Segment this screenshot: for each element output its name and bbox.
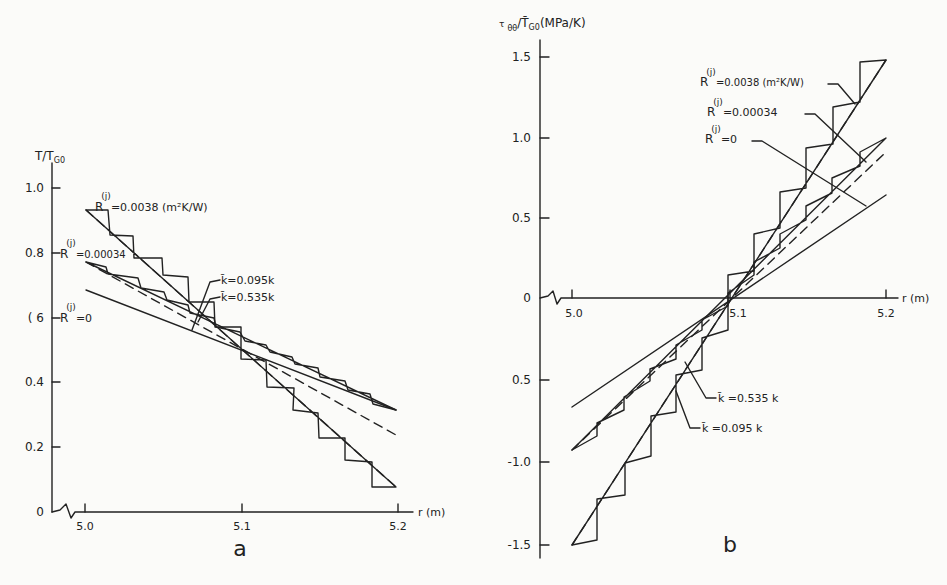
panel-a-leader-k1	[192, 280, 220, 330]
panel-a-series-r00038-step	[86, 210, 396, 487]
panel-a-annotation-r00038: R(j)=0.0038 (m²K/W)	[95, 191, 208, 214]
panel-b-annotation-r00038: R(j)=0.0038 (m²K/W)	[700, 67, 804, 89]
panel-b-leader-r00038	[828, 84, 855, 104]
panel-b-leader-k0535	[685, 362, 716, 398]
panel-a-x-ticks	[85, 504, 398, 512]
panel-b-annotation-r000034: R(j)=0.00034	[707, 97, 778, 119]
panel-a-x-axis	[52, 504, 413, 518]
panel-a-annotation-k0095: k̄=0.095k	[220, 274, 275, 287]
panel-a-ytick-0-6: ( 6	[28, 311, 44, 325]
panel-a-annotation-k0535: k̄=0.535k	[220, 291, 275, 304]
panel-b-leader-r0	[752, 141, 866, 206]
panel-b-chart	[540, 40, 898, 558]
panel-a-label: a	[233, 536, 246, 561]
panel-a-annotation-r000034: R(j)=0.00034	[60, 238, 126, 261]
panel-b-y-ticks	[540, 57, 549, 545]
panel-a-ytick-1-0: 1.0	[25, 181, 44, 195]
panel-b-series-k0535-dashed	[572, 152, 886, 450]
panel-b-ytick-0: 0	[523, 291, 531, 305]
panel-a-ytick-0-8: 0.8	[25, 246, 44, 260]
panel-b-xtick-5-0: 5.0	[565, 307, 583, 320]
panel-b-label: b	[723, 532, 737, 557]
panel-a-leader-k2	[198, 297, 220, 322]
panel-b-x-axis	[540, 291, 898, 304]
panel-a-annotation-r0: R(j)=0	[60, 302, 92, 325]
panel-b-leader-k0095	[676, 391, 700, 428]
panel-b-ytick-neg-1-0: -1.0	[508, 455, 531, 469]
panel-a-x-label: r (m)	[418, 506, 445, 519]
panel-b-x-label: r (m)	[902, 292, 929, 305]
figure: T/TG0 1.0 0.8 ( 6 0.4 0.2 0 5.0 5.1 5.2 …	[0, 0, 947, 585]
panel-a-text: T/TG0 1.0 0.8 ( 6 0.4 0.2 0 5.0 5.1 5.2 …	[25, 149, 445, 561]
panel-b-xtick-5-2: 5.2	[877, 307, 895, 320]
panel-a-xtick-5-2: 5.2	[389, 520, 407, 533]
panel-a-xtick-5-0: 5.0	[76, 520, 94, 533]
panel-a-y-ticks	[52, 188, 60, 447]
panel-b-ytick-neg-1-5: -1.5	[508, 538, 531, 552]
panel-a-chart	[52, 163, 413, 518]
panel-b-ytick-1-0: 1.0	[512, 131, 531, 145]
panel-a-ytick-0-4: 0.4	[25, 375, 44, 389]
panel-b-y-label: τθθ/T̄G0(MPa/K)	[499, 16, 586, 33]
panel-b-annotation-k0535: k̄ =0.535 k	[717, 392, 779, 405]
panel-b-xtick-5-1: 5.1	[729, 307, 747, 320]
panel-b-ytick-1-5: 1.5	[512, 50, 531, 64]
panel-a-ytick-0-2: 0.2	[25, 440, 44, 454]
panel-b-annotation-r0: R(j)=0	[705, 124, 737, 146]
panel-b-text: τθθ/T̄G0(MPa/K) 1.5 1.0 0.5 0 0.5 -1.0 -…	[499, 16, 929, 557]
panel-b-annotation-k0095: k̄ =0.095 k	[701, 422, 763, 435]
panel-b-ytick-0-5: 0.5	[512, 211, 531, 225]
panel-b-ytick-neg-0-5: 0.5	[512, 373, 531, 387]
panel-a-y-label: T/TG0	[34, 149, 65, 165]
panel-a-ytick-0: 0	[36, 505, 44, 519]
panel-a-xtick-5-1: 5.1	[233, 520, 251, 533]
